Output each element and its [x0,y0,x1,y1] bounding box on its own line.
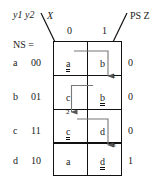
transition-label-3: 3 [112,141,116,149]
transition-label-2: 2 [66,108,70,116]
transition-arrow-1 [74,51,108,76]
transition-arrow-2 [72,86,94,113]
transition-arrows [0,0,168,181]
transition-arrow-3 [77,119,108,145]
transition-label-1: 1 [112,72,116,80]
flow-table-diagram: y1 y2 X PS Z NS = 0 1 a 00 b 01 c 11 d 1… [0,0,168,181]
